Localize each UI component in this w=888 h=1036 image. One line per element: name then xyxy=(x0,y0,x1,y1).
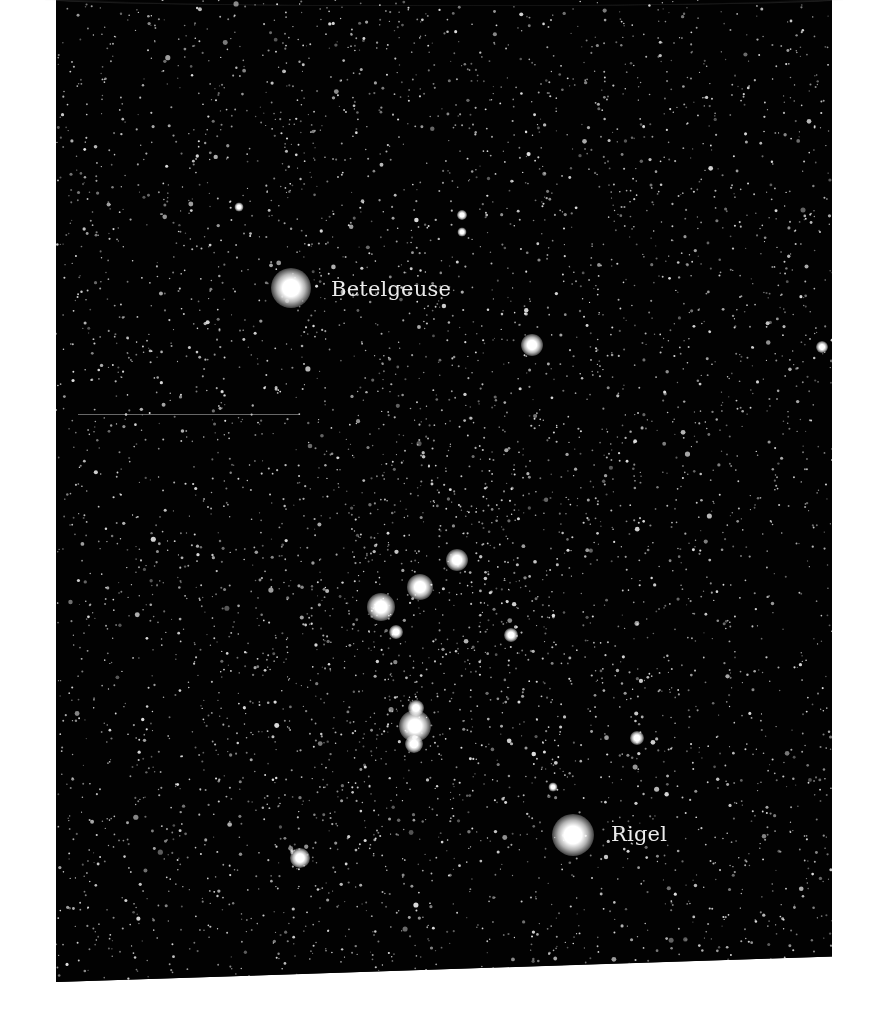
star-star-top-left xyxy=(235,203,244,212)
star-belt-alnitak xyxy=(367,593,395,621)
label-betelgeuse: Betelgeuse xyxy=(331,279,451,300)
star-belt-sub xyxy=(389,625,403,639)
star-belt-mintaka xyxy=(446,549,468,571)
star-betelgeuse xyxy=(271,268,311,308)
scan-artifact-line xyxy=(78,414,300,415)
star-star-lower-right xyxy=(549,783,558,792)
star-star-right-mid xyxy=(630,731,644,745)
orion-photograph: Betelgeuse Rigel xyxy=(56,0,832,982)
star-star-right-edge xyxy=(816,341,828,353)
star-saiph xyxy=(290,848,310,868)
star-star-top-cluster-a xyxy=(457,210,467,220)
star-belt-alnilam xyxy=(407,574,433,600)
star-nebula-lower xyxy=(405,735,423,753)
label-rigel: Rigel xyxy=(611,824,667,845)
star-rigel xyxy=(552,814,594,856)
starfield-background xyxy=(56,0,832,982)
star-bellatrix xyxy=(521,334,543,356)
star-star-top-cluster-b xyxy=(458,228,467,237)
star-star-right-belt xyxy=(504,628,518,642)
